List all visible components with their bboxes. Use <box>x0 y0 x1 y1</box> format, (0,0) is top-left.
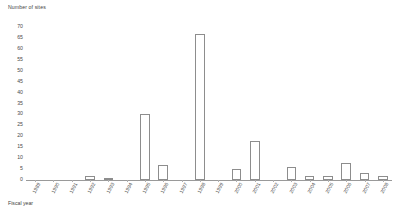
y-axis-tick-label: 40 <box>17 90 23 95</box>
y-axis-tick-label: 45 <box>17 79 23 84</box>
y-axis-tick-label: 20 <box>17 134 23 139</box>
y-axis-tick-label: 60 <box>17 46 23 51</box>
y-axis-title: Number of sites <box>8 4 46 10</box>
bar <box>341 163 351 180</box>
x-axis-tick-label: 1999 <box>215 182 225 194</box>
x-axis-tick-label: 1994 <box>124 182 134 194</box>
chart-figure: Number of sites 051015202530354045505560… <box>0 0 396 212</box>
y-axis-tick-label: 30 <box>17 112 23 117</box>
y-axis-tick-label: 35 <box>17 101 23 106</box>
x-axis-tick-label: 2004 <box>307 182 317 194</box>
x-axis-tick-label: 1996 <box>160 182 170 194</box>
x-axis-title: Fiscal year <box>8 200 33 206</box>
x-axis-tick-label: 2002 <box>270 182 280 194</box>
x-axis-tick-label: 1989 <box>32 182 42 194</box>
x-axis-tick-label: 2007 <box>362 182 372 194</box>
x-axis-tick-label: 1998 <box>197 182 207 194</box>
x-axis-tick-label: 2001 <box>252 182 262 194</box>
x-axis-tick-label: 1991 <box>69 182 79 194</box>
plot-area: 0510152025303540455055606570 <box>26 27 392 180</box>
y-axis-tick-label: 0 <box>20 177 23 182</box>
y-axis-tick-label: 50 <box>17 68 23 73</box>
y-axis-tick-label: 55 <box>17 57 23 62</box>
bar <box>195 34 205 180</box>
y-axis-tick-label: 10 <box>17 156 23 161</box>
y-axis-tick-label: 65 <box>17 35 23 40</box>
x-axis-tick-label: 2000 <box>233 182 243 194</box>
bar <box>158 165 168 180</box>
bar <box>287 167 297 180</box>
y-axis-tick-label: 70 <box>17 24 23 29</box>
bar <box>140 114 150 180</box>
y-axis-tick-label: 15 <box>17 145 23 150</box>
x-axis-tick-label: 2006 <box>343 182 353 194</box>
x-axis-tick-label: 1993 <box>105 182 115 194</box>
x-axis-tick-label: 2005 <box>325 182 335 194</box>
bar <box>250 141 260 180</box>
y-axis-tick-label: 25 <box>17 123 23 128</box>
x-axis-tick-label: 2008 <box>380 182 390 194</box>
bar <box>232 169 242 180</box>
x-axis-tick-label: 1995 <box>142 182 152 194</box>
x-axis-tick-label: 1992 <box>87 182 97 194</box>
y-axis-tick-label: 5 <box>20 166 23 171</box>
x-axis-tick-label: 2003 <box>288 182 298 194</box>
x-axis-tick-label: 1990 <box>50 182 60 194</box>
x-axis-tick-label: 1997 <box>179 182 189 194</box>
x-axis-line <box>26 180 392 181</box>
